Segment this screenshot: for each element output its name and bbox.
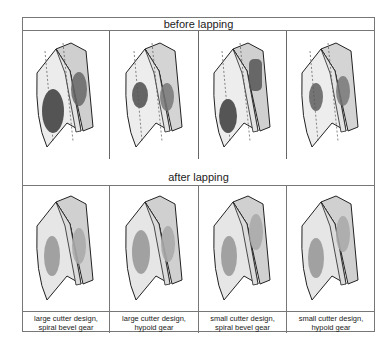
gear-tooth-before-1: [23, 31, 110, 159]
header-before-lapping: before lapping: [23, 18, 374, 31]
gear-tooth-after-4: [287, 186, 375, 311]
gear-tooth-after-3: [199, 186, 287, 311]
caption-4: small cutter design,hypoid gear: [287, 312, 375, 333]
gear-tooth-before-2: [110, 31, 199, 159]
caption-4-line1: small cutter design,: [299, 314, 364, 323]
caption-2-line1: large cutter design,: [122, 314, 186, 323]
before-lapping-row: [23, 31, 374, 159]
gear-tooth-before-4: [287, 31, 375, 159]
caption-3: small cutter design,spiral bevel gear: [199, 312, 287, 333]
after-lapping-row: [23, 186, 374, 311]
caption-3-line1: small cutter design,: [210, 314, 275, 323]
caption-row: large cutter design,spiral bevel gear la…: [23, 311, 374, 333]
caption-4-line2: hypoid gear: [311, 323, 350, 332]
contact-pattern-table: before lapping: [22, 17, 375, 332]
header-after-lapping: after lapping: [23, 159, 374, 186]
caption-2: large cutter design,hypoid gear: [110, 312, 199, 333]
gear-tooth-after-1: [23, 186, 110, 311]
caption-1: large cutter design,spiral bevel gear: [23, 312, 110, 333]
caption-1-line2: spiral bevel gear: [38, 323, 93, 332]
caption-1-line1: large cutter design,: [34, 314, 98, 323]
gear-tooth-after-2: [110, 186, 199, 311]
gear-tooth-before-3: [199, 31, 287, 159]
caption-2-line2: hypoid gear: [134, 323, 173, 332]
caption-3-line2: spiral bevel gear: [215, 323, 270, 332]
